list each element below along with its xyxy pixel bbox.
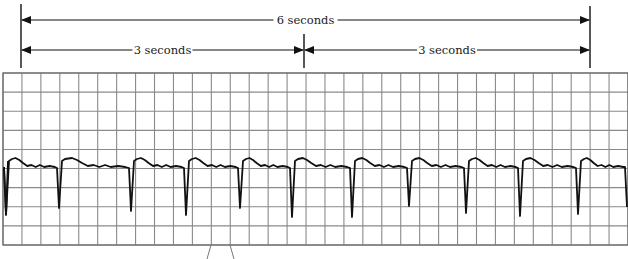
second-three-second-label: 3 seconds xyxy=(418,43,476,57)
caliper-tick xyxy=(207,245,211,259)
first-three-second-label: 3 seconds xyxy=(134,43,192,57)
caliper-tick-lines xyxy=(207,245,234,259)
ecg-strip: 6 seconds 3 seconds 3 seconds xyxy=(0,0,628,259)
caliper-tick xyxy=(230,245,234,259)
six-second-label: 6 seconds xyxy=(277,13,335,27)
